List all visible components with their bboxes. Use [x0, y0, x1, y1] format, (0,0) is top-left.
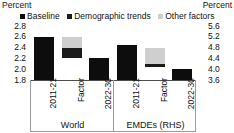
bar-segment-baseline: [34, 37, 54, 80]
legend-label: Baseline: [27, 12, 60, 21]
axis-tick-label: 4.4: [208, 54, 232, 63]
category-tick-label: 2022-30: [187, 78, 196, 118]
right-axis-unit-label: Percent: [203, 1, 232, 10]
bar-segment-baseline: [117, 45, 137, 80]
category-label-box: 2011-21Factor2022-30World2011-21Factor20…: [30, 80, 196, 132]
potential-growth-decomposition-chart: Percent Percent Baseline Demographic tre…: [0, 0, 234, 133]
axis-tick-label: 2.0: [2, 65, 26, 74]
axis-tick-label: 4.0: [208, 65, 232, 74]
bar-emdes-rhs--2022-30[interactable]: [172, 26, 192, 80]
axis-tick-label: 2.2: [2, 54, 26, 63]
legend-label: Demographic trends: [74, 12, 151, 21]
bar-segment-other-factors: [62, 37, 82, 48]
category-tick-label: Factor: [77, 78, 86, 118]
bar-world-Factor[interactable]: [62, 26, 82, 80]
axis-tick-label: 5.6: [208, 22, 232, 31]
bar-world-2022-30[interactable]: [89, 26, 109, 80]
axis-tick-label: 2.8: [2, 22, 26, 31]
bar-segment-baseline: [89, 58, 109, 80]
legend-item-baseline[interactable]: Baseline: [20, 12, 60, 21]
legend-label: Other factors: [165, 12, 214, 21]
left-axis-unit-label: Percent: [2, 1, 31, 10]
legend-swatch-icon: [158, 14, 163, 19]
plot-area: [30, 26, 196, 80]
chart-legend: Baseline Demographic trends Other factor…: [0, 11, 234, 22]
category-tick-label: Factor: [160, 78, 169, 118]
bar-segment-demographic-trends: [145, 64, 165, 67]
axis-tick-label: 1.8: [2, 76, 26, 85]
legend-item-other-factors[interactable]: Other factors: [158, 12, 215, 21]
axis-tick-label: 2.6: [2, 32, 26, 41]
bar-world-2011-21[interactable]: [34, 26, 54, 80]
panel-label: World: [31, 120, 114, 130]
legend-swatch-icon: [20, 14, 25, 19]
category-tick-label: 2022-30: [104, 78, 113, 118]
bar-segment-other-factors: [145, 48, 165, 64]
axis-tick-label: 2.4: [2, 43, 26, 52]
legend-swatch-icon: [67, 14, 72, 19]
legend-item-demographic-trends[interactable]: Demographic trends: [67, 12, 151, 21]
axis-tick-label: 5.2: [208, 32, 232, 41]
bar-emdes-rhs--2011-21[interactable]: [117, 26, 137, 80]
category-tick-label: 2011-21: [132, 78, 141, 118]
axis-tick-label: 4.8: [208, 43, 232, 52]
axis-tick-label: 3.6: [208, 76, 232, 85]
bar-segment-demographic-trends: [62, 48, 82, 59]
category-tick-label: 2011-21: [49, 78, 58, 118]
bar-emdes-rhs--Factor[interactable]: [145, 26, 165, 80]
panel-label: EMDEs (RHS): [114, 120, 197, 130]
